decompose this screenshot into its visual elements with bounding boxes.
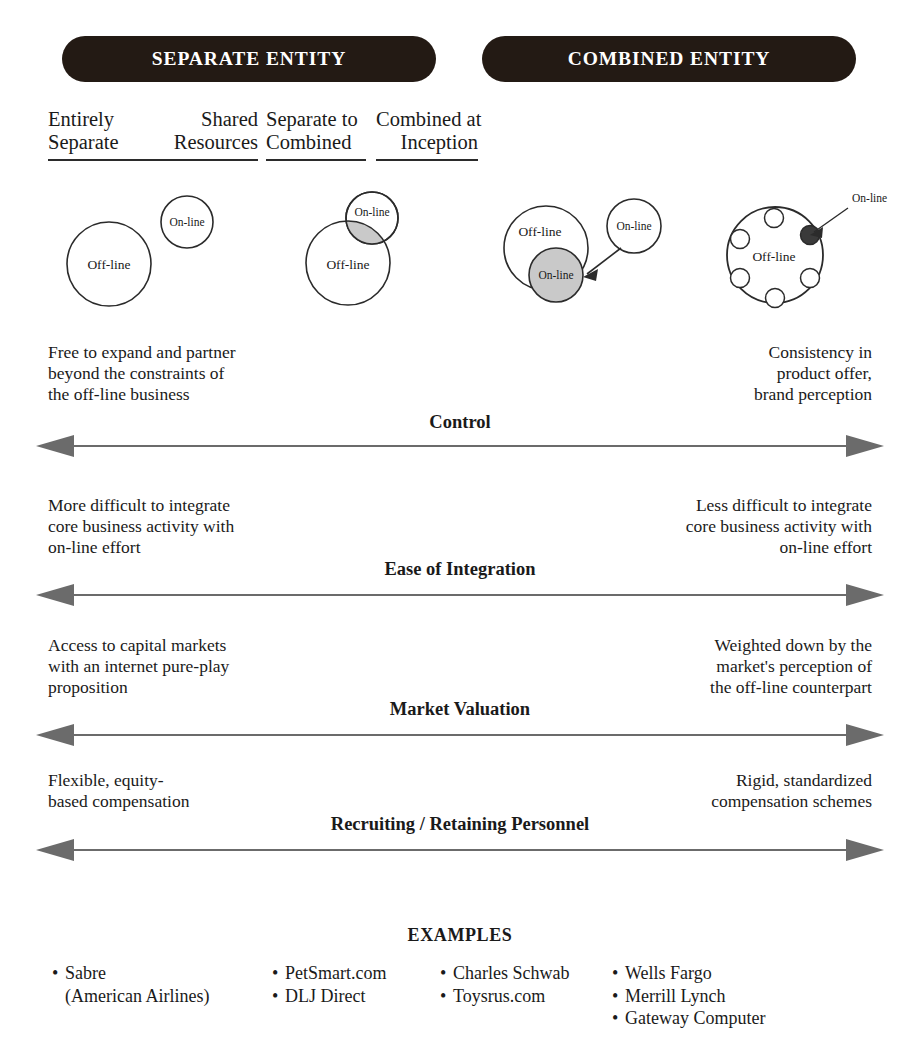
text-line: Consistency in — [542, 342, 872, 363]
column-heading-rule — [152, 159, 258, 161]
offline-label: Off-line — [752, 249, 795, 264]
list-item-label: Merrill Lynch — [625, 986, 725, 1006]
unit-circle — [766, 289, 785, 308]
offline-label: Off-line — [518, 224, 561, 239]
column-heading-rule — [48, 159, 153, 161]
text-line: on-line effort — [48, 537, 378, 558]
online-inner-label: On-line — [538, 269, 573, 281]
header-pill-separate-entity-label: SEPARATE ENTITY — [152, 48, 346, 70]
double-arrow-axis — [0, 838, 920, 862]
arrow-head-right — [846, 724, 884, 746]
list-item-sub: (American Airlines) — [52, 985, 209, 1008]
column-heading-line1: Separate to — [266, 108, 366, 131]
bullet-icon: • — [52, 962, 65, 985]
arrow-head-right — [846, 839, 884, 861]
text-line: Free to expand and partner — [48, 342, 378, 363]
list-item-label: PetSmart.com — [285, 963, 387, 983]
text-line: More difficult to integrate — [48, 495, 378, 516]
online-label: On-line — [852, 192, 887, 204]
examples-title: EXAMPLES — [0, 925, 920, 946]
text-line: brand perception — [542, 384, 872, 405]
list-item-label: Charles Schwab — [453, 963, 569, 983]
spectrum-left-text: Flexible, equity- based compensation — [48, 770, 378, 812]
list-item: •Merrill Lynch — [612, 985, 765, 1008]
text-line: core business activity with — [48, 516, 378, 537]
header-pill-separate-entity: SEPARATE ENTITY — [62, 36, 436, 82]
list-item-label: (American Airlines) — [65, 986, 209, 1006]
text-line: on-line effort — [542, 537, 872, 558]
online-label: On-line — [169, 216, 204, 228]
online-outer-label: On-line — [616, 220, 651, 232]
examples-group-combined-at-inception: •Wells Fargo •Merrill Lynch •Gateway Com… — [612, 962, 765, 1030]
list-item-label: Toysrus.com — [453, 986, 545, 1006]
venn-entirely-separate: Off-line On-line — [44, 186, 244, 311]
online-label: On-line — [354, 206, 389, 218]
header-pill-combined-entity: COMBINED ENTITY — [482, 36, 856, 82]
examples-group-entirely-separate: •Sabre (American Airlines) — [52, 962, 209, 1007]
column-heading-entirely-separate: Entirely Separate — [48, 108, 153, 161]
unit-circle — [765, 209, 784, 228]
offline-label: Off-line — [326, 257, 369, 272]
spectrum-right-text: Less difficult to integrate core busines… — [542, 495, 872, 558]
spectrum-right-text: Weighted down by the market's perception… — [542, 635, 872, 698]
spectrum-right-text: Consistency in product offer, brand perc… — [542, 342, 872, 405]
column-heading-line2: Resources — [152, 131, 258, 154]
diagram-canvas: SEPARATE ENTITY COMBINED ENTITY Entirely… — [0, 0, 920, 1055]
column-heading-rule — [266, 159, 366, 161]
unit-circle — [731, 269, 750, 288]
column-heading-shared-resources: Shared Resources — [152, 108, 258, 161]
axis-label: Recruiting / Retaining Personnel — [0, 814, 920, 835]
arrow-head-left — [36, 584, 74, 606]
spectrum-right-text: Rigid, standardized compensation schemes — [542, 770, 872, 812]
double-arrow-axis — [0, 434, 920, 458]
bullet-icon: • — [440, 985, 453, 1008]
list-item: •Gateway Computer — [612, 1007, 765, 1030]
axis-label: Ease of Integration — [0, 559, 920, 580]
text-line: Rigid, standardized — [542, 770, 872, 791]
arrow-head-left — [36, 724, 74, 746]
header-pill-combined-entity-label: COMBINED ENTITY — [568, 48, 771, 70]
list-item: •Sabre — [52, 962, 209, 985]
column-heading-combined-at-inception: Combined at Inception — [376, 108, 478, 161]
bullet-icon: • — [272, 962, 285, 985]
text-line: beyond the constraints of — [48, 363, 378, 384]
text-line: Less difficult to integrate — [542, 495, 872, 516]
venn-combined-at-inception: Off-line On-line — [700, 182, 900, 314]
text-line: compensation schemes — [542, 791, 872, 812]
unit-circle — [731, 230, 750, 249]
column-heading-line2: Inception — [376, 131, 478, 154]
bullet-icon: • — [612, 985, 625, 1008]
list-item: •Charles Schwab — [440, 962, 569, 985]
double-arrow-axis — [0, 583, 920, 607]
text-line: Access to capital markets — [48, 635, 378, 656]
text-line: market's perception of — [542, 656, 872, 677]
text-line: the off-line counterpart — [542, 677, 872, 698]
venn-separate-to-combined: Off-line On-line On-line — [488, 186, 678, 311]
bullet-icon: • — [612, 1007, 625, 1030]
list-item: •DLJ Direct — [272, 985, 387, 1008]
venn-shared-resources: Off-line On-line — [268, 186, 468, 311]
spectrum-left-text: More difficult to integrate core busines… — [48, 495, 378, 558]
spectrum-left-text: Access to capital markets with an intern… — [48, 635, 378, 698]
text-line: core business activity with — [542, 516, 872, 537]
arrow-head-right — [846, 584, 884, 606]
double-arrow-axis — [0, 723, 920, 747]
column-heading-separate-to-combined: Separate to Combined — [266, 108, 366, 161]
offline-label: Off-line — [87, 257, 130, 272]
text-line: based compensation — [48, 791, 378, 812]
list-item-label: DLJ Direct — [285, 986, 365, 1006]
list-item-label: Wells Fargo — [625, 963, 712, 983]
spectrum-left-text: Free to expand and partner beyond the co… — [48, 342, 378, 405]
list-item: •Toysrus.com — [440, 985, 569, 1008]
column-heading-line2: Combined — [266, 131, 366, 154]
axis-label: Control — [0, 412, 920, 433]
bullet-icon: • — [440, 962, 453, 985]
text-line: Weighted down by the — [542, 635, 872, 656]
text-line: with an internet pure-play — [48, 656, 378, 677]
text-line: proposition — [48, 677, 378, 698]
column-heading-line1: Combined at — [376, 108, 478, 131]
text-line: product offer, — [542, 363, 872, 384]
text-line: Flexible, equity- — [48, 770, 378, 791]
list-item: •PetSmart.com — [272, 962, 387, 985]
bullet-icon: • — [272, 985, 285, 1008]
